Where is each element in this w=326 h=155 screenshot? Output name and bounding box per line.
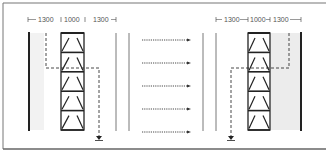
- flow-arrow-icon: [142, 39, 191, 42]
- right-dim-1: 1300: [224, 16, 240, 23]
- left-dim-1: 1300: [38, 16, 54, 23]
- left-rack: [61, 33, 84, 130]
- warehouse-aisle-diagram: 1300 1000 1300 1300 1000 1300: [0, 0, 326, 155]
- right-shaded-zone: [271, 33, 300, 130]
- left-dim-3: 1300: [93, 16, 109, 23]
- left-shaded-zone: [30, 33, 44, 130]
- flow-arrow-icon: [142, 108, 191, 111]
- right-dimension-line: 1300 1000 1300: [216, 16, 301, 23]
- flow-arrow-icon: [142, 85, 191, 88]
- left-pick-path: [46, 33, 99, 136]
- left-dimension-line: 1300 1000 1300: [28, 16, 116, 23]
- left-down-arrow-icon: [96, 136, 102, 140]
- center-flow-arrows: [142, 39, 191, 134]
- right-dim-3: 1300: [273, 16, 289, 23]
- right-rack: [248, 33, 270, 130]
- flow-arrow-icon: [142, 62, 191, 65]
- left-dim-2: 1000: [64, 16, 80, 23]
- right-dim-2: 1000: [250, 16, 266, 23]
- right-down-arrow-icon: [228, 136, 234, 140]
- flow-arrow-icon: [142, 131, 191, 134]
